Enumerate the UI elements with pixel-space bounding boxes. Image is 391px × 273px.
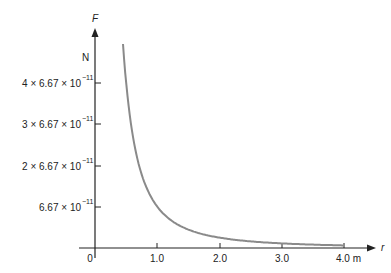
x-tick-label-0: 0 [87,253,93,264]
y-unit-label: N [82,52,89,63]
x-axis-arrow-icon [367,245,376,252]
force-curve [123,44,344,245]
x-tick-label-1: 1.0 [150,253,164,264]
svg-text:−11: −11 [82,157,93,164]
y-ticks [95,83,101,207]
x-tick-label-3: 3.0 [275,253,289,264]
svg-text:−11: −11 [82,74,93,81]
y-axis-arrow-icon [92,28,99,37]
chart: F N r 4 × 6.67 × 10 −11 3 × 6.67 × 10 −1… [0,0,391,273]
svg-text:−11: −11 [82,115,93,122]
y-tick-label-3: 3 × 6.67 × 10 −11 [22,115,93,130]
y-axis-label: F [92,13,99,24]
svg-text:−11: −11 [82,198,93,205]
svg-text:3 × 6.67 × 10: 3 × 6.67 × 10 [22,119,81,130]
svg-text:6.67 × 10: 6.67 × 10 [39,202,81,213]
x-tick-label-4: 4.0 m [336,253,361,264]
y-tick-label-4: 4 × 6.67 × 10 −11 [22,74,93,89]
y-tick-label-1: 6.67 × 10 −11 [39,198,93,213]
svg-text:2 × 6.67 × 10: 2 × 6.67 × 10 [22,161,81,172]
svg-text:4 × 6.67 × 10: 4 × 6.67 × 10 [22,78,81,89]
x-axis-label: r [381,242,385,253]
x-tick-label-2: 2.0 [213,253,227,264]
y-tick-label-2: 2 × 6.67 × 10 −11 [22,157,93,172]
